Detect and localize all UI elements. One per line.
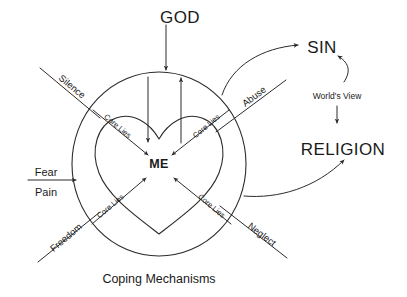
silence-source-line bbox=[40, 68, 100, 118]
religion-label: RELIGION bbox=[301, 140, 385, 159]
sin-label: SIN bbox=[307, 38, 337, 57]
god-label: GOD bbox=[160, 8, 200, 27]
diagram-graphic: GOD ME Coping Mechanisms SIN World's Vie… bbox=[0, 0, 407, 297]
coping-mechanisms-caption: Coping Mechanisms bbox=[102, 272, 215, 286]
core-lies-label-bottom-left: Core Lies bbox=[95, 192, 126, 220]
neglect-label: Neglect bbox=[246, 220, 279, 248]
core-lies-label-bottom-right: Core Lies bbox=[196, 192, 227, 220]
fear-label: Fear bbox=[35, 166, 58, 178]
arrow-worlds-view-to-sin bbox=[338, 56, 348, 82]
freedom-label: Freedom bbox=[48, 221, 84, 254]
me-label: ME bbox=[149, 157, 168, 171]
arrow-to-religion bbox=[244, 160, 344, 196]
pain-label: Pain bbox=[35, 186, 57, 198]
worlds-view-label: World's View bbox=[313, 91, 362, 101]
diagram-canvas: GOD ME Coping Mechanisms SIN World's Vie… bbox=[0, 0, 407, 297]
